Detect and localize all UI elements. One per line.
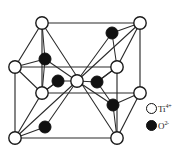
crystal-structure-figure: Ti4+ O2- xyxy=(0,0,191,156)
cation-top-front-left xyxy=(9,61,21,73)
cation-top-back-right xyxy=(134,17,146,29)
legend-charge-oxygen: 2- xyxy=(164,120,168,126)
legend-charge-titanium: 4+ xyxy=(165,103,171,109)
anion-o-top-left xyxy=(39,53,51,65)
edge-bottom-right xyxy=(117,93,140,138)
bond-center-otr xyxy=(77,33,112,81)
legend-item-oxygen: O2- xyxy=(146,117,191,134)
legend: Ti4+ O2- xyxy=(146,100,191,134)
cation-bottom-front-right xyxy=(111,132,123,144)
legend-item-titanium: Ti4+ xyxy=(146,100,191,117)
anion-o-bottom-left xyxy=(39,121,51,133)
legend-label-oxygen: O2- xyxy=(158,120,169,131)
anion-o-mid-left xyxy=(52,75,64,87)
bond-center-obl xyxy=(45,81,77,127)
cation-bottom-back-left xyxy=(36,87,48,99)
filled-circle-icon xyxy=(146,120,157,131)
cation-bottom-back-right xyxy=(134,87,146,99)
edge-bottom-left xyxy=(15,93,42,138)
anion-o-mid-right xyxy=(91,76,103,88)
cation-body-center xyxy=(71,75,83,87)
cation-top-front-right xyxy=(111,61,123,73)
anion-o-top-right xyxy=(106,27,118,39)
anion-o-lower-right xyxy=(107,99,119,111)
open-circle-icon xyxy=(146,103,157,114)
cation-bottom-front-left xyxy=(9,132,21,144)
cation-top-back-left xyxy=(36,17,48,29)
legend-label-titanium: Ti4+ xyxy=(158,103,171,114)
